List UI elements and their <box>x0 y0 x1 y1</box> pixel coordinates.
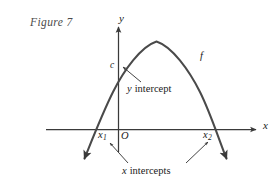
x-intercepts-annotation: xintercepts <box>122 166 171 177</box>
y-axis-label: y <box>119 13 124 24</box>
x-intercept-2-subscript: 2 <box>208 133 212 142</box>
origin-label: O <box>121 131 129 142</box>
y-intercept-point-label: c <box>110 61 114 71</box>
x-intercept-2-variable: x <box>203 129 208 140</box>
graph-svg <box>0 0 277 190</box>
function-curve-label: f <box>200 51 203 62</box>
y-intercept-annotation: yintercept <box>127 84 171 95</box>
y-intercept-annotation-variable: y <box>127 83 132 94</box>
x-intercept-1-variable: x <box>98 129 103 140</box>
x-intercept-1-label: x1 <box>98 130 107 142</box>
x-intercept-1-subscript: 1 <box>103 133 107 142</box>
x-intercept-2-leader-line <box>186 142 208 163</box>
figure-container: Figure 7 y x O c f x1 x2 yintercept xint… <box>0 0 277 190</box>
x-intercepts-annotation-text: intercepts <box>127 165 171 176</box>
x-intercepts-annotation-variable: x <box>122 165 127 176</box>
x-axis-label: x <box>263 120 268 131</box>
x-intercept-2-label: x2 <box>203 130 212 142</box>
y-intercept-annotation-text: intercept <box>132 83 172 94</box>
y-intercept-leader-line <box>123 67 141 82</box>
figure-caption: Figure 7 <box>30 17 73 29</box>
